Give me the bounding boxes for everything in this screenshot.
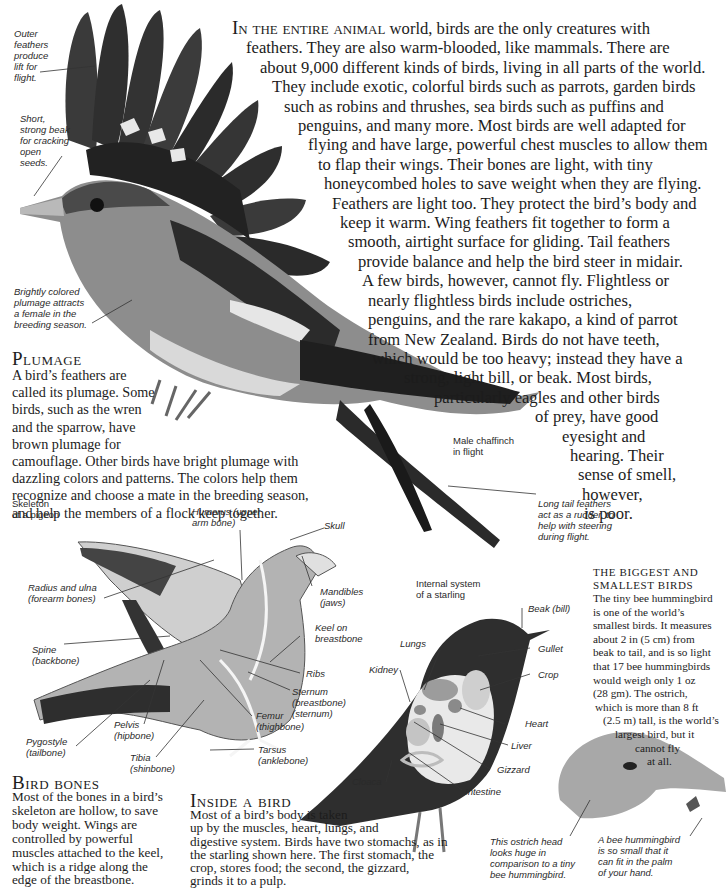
label-starling-beak: Beak (bill)	[528, 603, 570, 614]
intro-line-0: In the entire animal world, birds are th…	[232, 18, 726, 38]
label-ostrich-head: This ostrich head looks huge in comparis…	[490, 836, 575, 880]
label-pelvis: Pelvis (hipbone)	[114, 719, 154, 741]
label-intestine: Intestine	[465, 786, 501, 797]
label-outer-feathers: Outer feathers produce lift for flight.	[14, 28, 48, 83]
intro-line-17: which would be too heavy; instead they h…	[232, 349, 726, 368]
label-tail-feathers: Long tail feathers act as a rudder, to h…	[538, 498, 614, 542]
intro-line-3: They include exotic, colorful birds such…	[232, 77, 726, 96]
bird-bones-paragraph: Most of the bones in a bird’s skeleton a…	[12, 790, 163, 887]
intro-line-10: keep it warm. Wing feathers fit together…	[232, 213, 726, 232]
label-liver: Liver	[511, 740, 532, 751]
biggest-smallest-paragraph: The tiny bee hummingbird is one of the w…	[593, 592, 719, 769]
intro-line-7: to flap their wings. Their bones are lig…	[232, 155, 726, 174]
label-radius-ulna: Radius and ulna (forearm bones)	[28, 582, 97, 604]
intro-line-1: feathers. They are also warm-blooded, li…	[232, 38, 726, 57]
intro-lead-caps: In the entire animal	[232, 17, 385, 38]
label-heart: Heart	[525, 718, 548, 729]
caption-starling: Internal system of a starling	[416, 578, 480, 600]
label-keel: Keel on breastbone	[315, 622, 363, 644]
label-gizzard: Gizzard	[497, 764, 530, 775]
label-plumage: Brightly colored plumage attracts a fema…	[14, 286, 87, 330]
caption-pigeon-skeleton: Skeleton of a pigeon	[12, 498, 59, 520]
label-spine: Spine (backbone)	[32, 644, 80, 666]
label-femur: Femur (thighbone)	[256, 710, 304, 732]
intro-line-13: A few birds, however, cannot fly. Flight…	[232, 271, 726, 290]
intro-line-16: from New Zealand. Birds do not have teet…	[232, 330, 726, 349]
label-lungs: Lungs	[400, 638, 426, 649]
intro-line-4: such as robins and thrushes, sea birds s…	[232, 97, 726, 116]
hummingbird-illustration	[686, 796, 700, 812]
intro-line-15: penguins, and the rare kakapo, a kind of…	[232, 310, 726, 329]
plumage-heading: Plumage	[12, 348, 82, 369]
label-pygostyle: Pygostyle (tailbone)	[26, 736, 67, 758]
biggest-smallest-heading: The biggest and smallest birds	[593, 566, 698, 592]
label-crop: Crop	[538, 669, 559, 680]
label-tarsus: Tarsus (anklebone)	[258, 744, 308, 766]
label-bee-hummingbird: A bee hummingbird is so small that it ca…	[598, 834, 680, 878]
label-beak: Short, strong beak for cracking open see…	[20, 113, 70, 168]
intro-line-5: penguins, and many more. Most birds are …	[232, 116, 726, 135]
intro-line-9: Feathers are light too. They protect the…	[232, 194, 726, 213]
label-tibia: Tibia (shinbone)	[130, 752, 175, 774]
label-skull: Skull	[324, 520, 345, 531]
label-cloaca: Cloaca	[352, 776, 382, 787]
intro-line-12: provide balance and help the bird steer …	[232, 252, 726, 271]
intro-line-8: honeycombed holes to save weight when th…	[232, 174, 726, 193]
label-gullet: Gullet	[538, 643, 563, 654]
label-mandibles: Mandibles (jaws)	[320, 586, 363, 608]
intro-line-2: about 9,000 different kinds of birds, li…	[232, 58, 726, 77]
intro-line-11: smooth, airtight surface for gliding. Ta…	[232, 232, 726, 251]
caption-male-chaffinch: Male chaffinch in flight	[453, 435, 514, 457]
label-humerus: Humerus (upper arm bone)	[192, 506, 261, 528]
label-ribs: Ribs	[306, 668, 325, 679]
intro-line-14: nearly flightless birds include ostriche…	[232, 291, 726, 310]
intro-line-6: flying and have large, powerful chest mu…	[232, 135, 726, 154]
inside-a-bird-paragraph: Most of a bird’s body is taken up by the…	[190, 808, 448, 888]
label-kidney: Kidney	[369, 664, 398, 675]
